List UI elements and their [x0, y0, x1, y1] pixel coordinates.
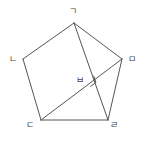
diagonal-giyeok-rieul [74, 23, 108, 120]
vertex-nieun-label: ㄴ [9, 55, 17, 64]
vertex-rieul-label: ㄹ [110, 121, 118, 130]
edge-mieum-giyeok [74, 23, 122, 59]
intersection-bieup-label: ㅂ [76, 76, 84, 85]
geometry-figure: ㄱㄴㄷㄹㅁㅂ [0, 0, 145, 142]
edge-giyeok-nieun [23, 23, 74, 59]
vertex-digeut-label: ㄷ [26, 121, 34, 130]
vertex-mieum-label: ㅁ [128, 55, 136, 64]
figure-canvas [0, 0, 145, 142]
edge-nieun-digeut [23, 59, 41, 120]
vertex-giyeok-label: ㄱ [69, 7, 77, 16]
pentagon-edges [23, 23, 122, 120]
